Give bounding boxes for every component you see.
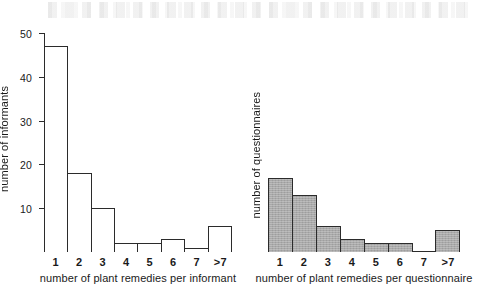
x-tick-label: >7 — [436, 256, 460, 268]
x-axis-title-left: number of plant remedies per informant — [40, 272, 236, 284]
chart-panel-right: individual informants schools survey que… — [246, 0, 494, 308]
y-tick-label: 40 — [20, 72, 32, 84]
x-tick-label: 5 — [138, 256, 162, 268]
x-tick-label: 2 — [292, 256, 316, 268]
y-tick-label: 50 — [20, 28, 32, 40]
bar — [364, 243, 389, 252]
bar — [67, 173, 91, 252]
y-axis-title-right: number of questionnaires — [250, 92, 262, 219]
bar — [316, 226, 341, 252]
bar — [91, 208, 115, 252]
figure: number of informants 1020304050 1234567>… — [0, 0, 494, 308]
bar — [435, 230, 460, 252]
x-tick-label: 7 — [185, 256, 209, 268]
x-axis-title-right: number of plant remedies per questionnai… — [256, 272, 473, 284]
x-axis-tick-labels-left: 1234567>7 — [44, 256, 232, 268]
x-tick-label: 4 — [115, 256, 139, 268]
x-tick-label: 1 — [44, 256, 68, 268]
chart-panel-left: number of informants 1020304050 1234567>… — [0, 0, 246, 308]
x-tick-label: 6 — [162, 256, 186, 268]
x-tick-label: 4 — [340, 256, 364, 268]
y-tick-label: 30 — [20, 116, 32, 128]
bar — [292, 195, 317, 252]
y-tick-label: 10 — [20, 203, 32, 215]
y-axis-title-left: number of informants — [0, 86, 10, 192]
plot-area-right: 1234567>7 number of plant remedies per q… — [268, 33, 460, 252]
bar-group-left — [44, 33, 232, 252]
x-axis-tick-labels-right: 1234567>7 — [268, 256, 460, 268]
x-tick-label: >7 — [209, 256, 233, 268]
bar — [137, 243, 161, 252]
x-tick-label: 6 — [388, 256, 412, 268]
bar — [114, 243, 138, 252]
y-tick-label: 20 — [20, 159, 32, 171]
x-tick-label: 7 — [412, 256, 436, 268]
bar — [161, 239, 185, 252]
x-tick-label: 3 — [91, 256, 115, 268]
bar — [208, 226, 232, 252]
bar — [340, 239, 365, 252]
bar — [44, 46, 68, 252]
x-tick-label: 5 — [364, 256, 388, 268]
bar — [388, 243, 413, 252]
x-tick-label: 2 — [68, 256, 92, 268]
x-tick-label: 1 — [268, 256, 292, 268]
bar — [184, 248, 208, 252]
bar — [268, 178, 293, 252]
plot-area-left: 1020304050 1234567>7 number of plant rem… — [44, 33, 232, 252]
x-tick-label: 3 — [316, 256, 340, 268]
bar-group-right — [268, 33, 460, 252]
